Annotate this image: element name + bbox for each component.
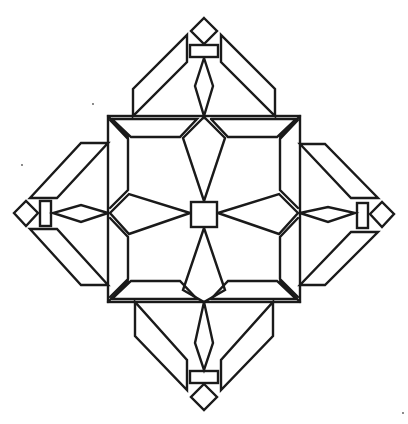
wing-top-right [221, 35, 275, 116]
diamond-right [370, 202, 394, 227]
speck [21, 164, 23, 166]
kite-right [218, 194, 298, 234]
kite-left [110, 194, 190, 234]
ornament-canvas [0, 0, 408, 424]
diamond-bottom [191, 384, 217, 410]
center-square [191, 202, 217, 227]
bar-right [357, 203, 368, 228]
kite-up [183, 117, 225, 201]
wing-right-top [300, 144, 378, 198]
kite-top-arm [195, 58, 213, 116]
wing-left-top [30, 143, 108, 198]
wing-bottom-left [135, 302, 187, 390]
wing-right-bottom [300, 232, 378, 285]
wing-left-bottom [30, 229, 108, 285]
quadrant-top-right [211, 116, 300, 208]
wing-bottom-right [221, 302, 273, 390]
arm-right [300, 144, 394, 285]
arm-bottom [135, 302, 273, 410]
diamond-left [14, 201, 38, 226]
geometric-ornament [0, 0, 408, 424]
wing-top-left [133, 35, 187, 116]
diamond-top [191, 18, 217, 44]
bar-top [190, 45, 218, 57]
quadrant-top-left [108, 116, 197, 208]
kite-bottom-arm [195, 302, 213, 370]
speck [92, 103, 94, 105]
kite-left-arm [53, 205, 108, 222]
arm-top [133, 18, 275, 116]
arm-left [14, 143, 108, 285]
bar-left [40, 201, 51, 226]
central-square [108, 116, 300, 302]
kite-right-arm [300, 207, 355, 222]
speck [402, 412, 404, 414]
